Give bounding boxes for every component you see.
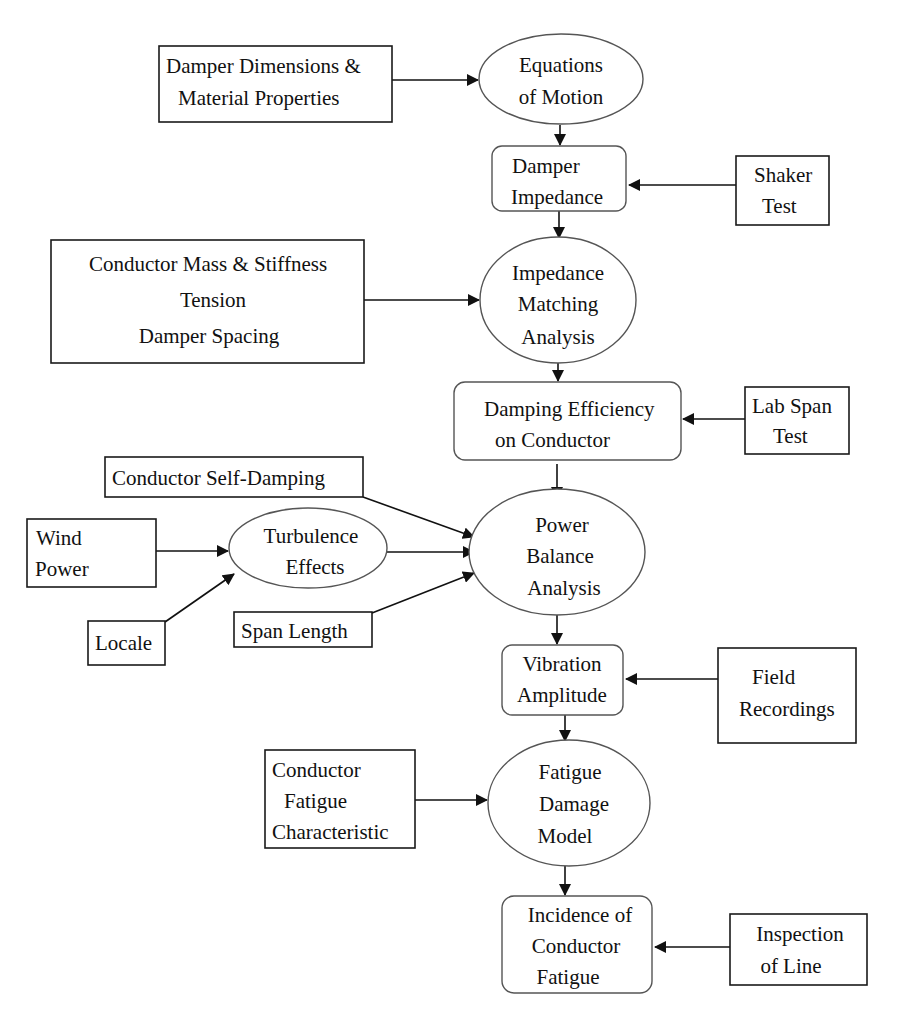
node-fatigue-damage-model[interactable]: Fatigue Damage Model [488,740,650,866]
node-label: Locale [95,631,152,655]
edge-span-length-to-power-balance [372,573,474,613]
node-turbulence-effects[interactable]: Turbulence Effects [229,508,387,588]
node-label: Analysis [527,576,601,600]
node-label: on Conductor [495,428,610,452]
node-label: Damper Spacing [139,324,280,348]
node-label: Model [538,824,593,848]
node-locale[interactable]: Locale [88,621,165,665]
node-label: Fatigue [284,789,347,813]
node-label: Fatigue [537,965,600,989]
node-label: Lab Span [752,394,832,418]
node-label: Recordings [739,697,835,721]
flowchart-canvas: Damper Dimensions & Material Properties … [0,0,897,1024]
node-label: Wind [36,526,82,550]
node-label: Inspection [756,922,844,946]
node-equations-of-motion[interactable]: Equations of Motion [479,34,643,124]
node-field-recordings[interactable]: Field Recordings [718,648,856,743]
node-label: Damping Efficiency [484,397,655,421]
node-label: Impedance [511,185,603,209]
node-power-balance[interactable]: Power Balance Analysis [469,489,645,615]
node-label: Turbulence [264,524,359,548]
node-label: Power [35,557,89,581]
node-incidence-of-conductor-fatigue[interactable]: Incidence of Conductor Fatigue [502,896,652,993]
node-damping-efficiency[interactable]: Damping Efficiency on Conductor [454,382,681,460]
node-label: Fatigue [539,760,602,784]
node-label: Conductor [272,758,361,782]
node-label: of Motion [519,85,604,109]
node-label: Damper [512,154,580,178]
node-label: Incidence of [528,903,632,927]
node-label: Tension [180,288,247,312]
node-label: Power [535,513,589,537]
node-label: Characteristic [272,820,389,844]
node-label: Test [773,424,808,448]
node-label: Span Length [241,619,348,643]
node-wind-power[interactable]: Wind Power [27,519,156,587]
edges [156,80,745,947]
node-label: Matching [518,292,599,316]
node-vibration-amplitude[interactable]: Vibration Amplitude [502,645,623,715]
node-conductor-self-damping[interactable]: Conductor Self-Damping [105,457,363,497]
node-damper-impedance[interactable]: Damper Impedance [492,146,626,211]
node-label: Damper Dimensions & [166,54,361,78]
node-label: Impedance [512,261,604,285]
node-label: Field [752,665,796,689]
node-label: Conductor Mass & Stiffness [89,252,327,276]
ellipse-shape [479,34,643,124]
node-conductor-fatigue-characteristic[interactable]: Conductor Fatigue Characteristic [265,750,415,848]
node-label: Conductor Self-Damping [112,466,325,490]
node-label: Effects [285,555,344,579]
node-inspection-of-line[interactable]: Inspection of Line [730,914,867,985]
node-label: Equations [519,53,603,77]
node-label: of Line [760,954,821,978]
edge-locale-to-turbulence [165,574,234,622]
node-label: Material Properties [178,86,340,110]
node-label: Analysis [521,325,595,349]
rect-shape [718,648,856,743]
node-label: Test [762,194,797,218]
node-impedance-matching[interactable]: Impedance Matching Analysis [480,237,636,363]
node-damper-dimensions[interactable]: Damper Dimensions & Material Properties [159,46,392,122]
node-label: Balance [526,544,594,568]
node-label: Shaker [754,163,812,187]
node-lab-span-test[interactable]: Lab Span Test [745,387,849,454]
node-label: Conductor [532,934,621,958]
node-label: Amplitude [517,683,607,707]
node-shaker-test[interactable]: Shaker Test [736,156,829,225]
node-label: Damage [539,792,609,816]
node-span-length[interactable]: Span Length [234,612,372,647]
node-conductor-mass-stiffness[interactable]: Conductor Mass & Stiffness Tension Dampe… [51,240,364,363]
node-label: Vibration [522,652,602,676]
